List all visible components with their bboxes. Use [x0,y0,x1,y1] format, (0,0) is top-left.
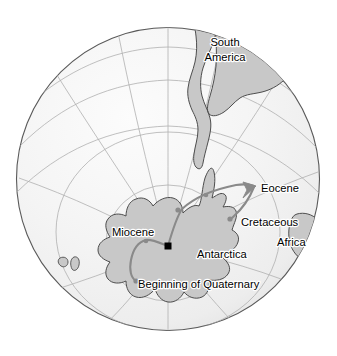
marker-miocene [175,207,180,212]
marker-path-node-lower [144,239,149,244]
polar-wander-figure: South America Eocene Cretaceous Africa M… [0,0,337,356]
landmass-australia [18,295,66,326]
label-cretaceous: Cretaceous [241,216,299,228]
landmass-new-zealand-north [58,257,68,267]
label-africa: Africa [277,236,306,248]
label-miocene: Miocene [112,226,154,238]
marker-path-node-mid [204,193,209,198]
landmass-new-zealand-south [71,257,80,271]
label-south-america-line2: America [204,51,246,63]
south-pole-marker [165,243,172,250]
globe-map: South America Eocene Cretaceous Africa M… [0,0,337,356]
label-eocene: Eocene [261,182,299,194]
label-beginning-of-quaternary: Beginning of Quaternary [138,278,260,290]
label-south-america-line1: South [210,36,239,48]
label-antarctica: Antarctica [197,248,248,260]
marker-cretaceous [227,216,232,221]
